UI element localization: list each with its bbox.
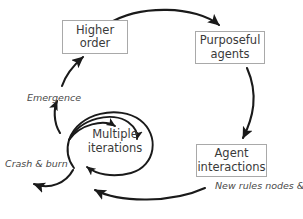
node-multiple-iterations-line2: iterations	[81, 141, 149, 155]
arrow-iteration-tail	[68, 140, 74, 168]
edge-label-emergence: Emergence	[27, 92, 81, 103]
edge-label-crash-and-burn: Crash & burn	[5, 158, 68, 169]
node-agent-interactions-line2: interactions	[197, 161, 265, 175]
node-multiple-iterations: Multiple iterations	[81, 127, 149, 155]
arrow-purposeful-to-agent	[243, 68, 254, 138]
node-higher-order-line1: Higher	[76, 24, 114, 38]
arrow-emergence	[55, 101, 60, 133]
node-purposeful-agents-line2: agents	[210, 48, 249, 62]
diagram-canvas: Higher order Purposeful agents Agent int…	[0, 0, 303, 219]
arrow-agent-to-multiple	[95, 188, 205, 200]
edge-label-new-rules: New rules nodes & networks	[215, 180, 303, 191]
node-purposeful-agents[interactable]: Purposeful agents	[195, 31, 265, 64]
node-higher-order-line2: order	[80, 37, 111, 51]
arrow-crash-and-burn	[34, 170, 73, 186]
node-multiple-iterations-line1: Multiple	[81, 127, 149, 141]
node-agent-interactions[interactable]: Agent interactions	[196, 144, 267, 177]
arrow-emergence-upper	[62, 57, 83, 86]
node-agent-interactions-line1: Agent	[214, 147, 248, 161]
edge-label-new-rules-line1: New rules	[215, 180, 262, 191]
node-purposeful-agents-line1: Purposeful	[200, 34, 261, 48]
node-higher-order[interactable]: Higher order	[62, 20, 128, 54]
edge-label-new-rules-line2: nodes & networks	[265, 180, 303, 191]
